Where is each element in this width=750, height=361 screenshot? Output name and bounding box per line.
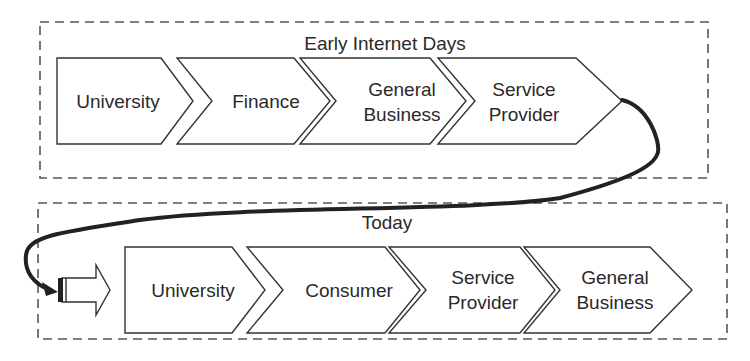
group-title: Early Internet Days	[304, 33, 466, 54]
step-finance: Finance	[177, 58, 330, 144]
step-label-line2: Business	[363, 104, 440, 125]
group-today: Today University Consumer Service Provid…	[38, 203, 727, 339]
step-label-line1: Service	[451, 267, 514, 288]
group-early-internet-days: Early Internet Days University Finance G…	[40, 22, 708, 178]
step-label-line1: Service	[492, 79, 555, 100]
step-label-line2: Provider	[489, 104, 560, 125]
step-label: University	[151, 280, 235, 301]
step-label-line1: General	[581, 267, 649, 288]
step-university: University	[125, 247, 265, 333]
step-label: University	[76, 91, 160, 112]
step-label-line2: Provider	[448, 292, 519, 313]
step-label: Consumer	[305, 280, 393, 301]
evolution-diagram: Early Internet Days University Finance G…	[0, 0, 750, 361]
group-title: Today	[362, 212, 413, 233]
step-consumer: Consumer	[247, 247, 420, 333]
arrowhead-icon	[42, 282, 58, 296]
block-arrow-icon	[58, 265, 110, 315]
step-university: University	[57, 58, 193, 144]
step-label: Finance	[232, 91, 300, 112]
step-label-line2: Business	[576, 292, 653, 313]
step-label-line1: General	[368, 79, 436, 100]
